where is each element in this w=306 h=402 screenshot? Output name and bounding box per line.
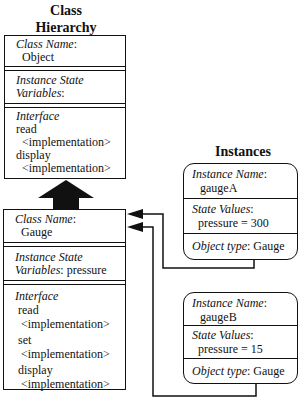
inheritance-arrow-icon [38, 180, 94, 210]
connector-layer [0, 0, 306, 402]
instance-of-arrow-gaugeB [127, 222, 256, 396]
instance-of-arrow-gaugeA [127, 209, 254, 268]
